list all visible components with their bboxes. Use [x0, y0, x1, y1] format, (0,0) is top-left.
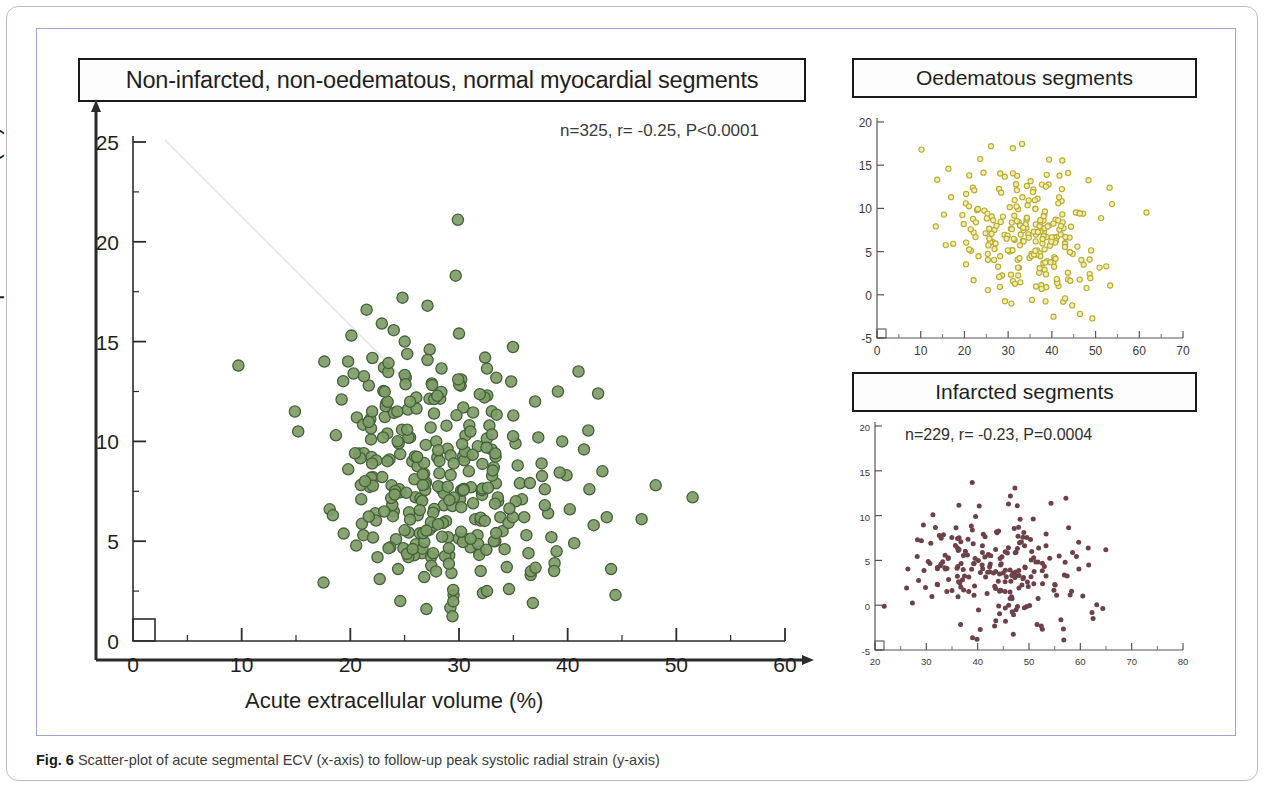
- svg-text:50: 50: [1089, 344, 1103, 358]
- infarcted-chart-stats: n=229, r= -0.23, P=0.0004: [905, 426, 1092, 444]
- svg-text:50: 50: [1024, 656, 1035, 667]
- figure-caption: Fig. 6 Scatter-plot of acute segmental E…: [36, 752, 1246, 768]
- oedematous-chart-panel: Oedematous segments -5051015200102030405…: [845, 58, 1205, 370]
- svg-text:0: 0: [107, 630, 119, 653]
- svg-text:50: 50: [665, 653, 688, 676]
- main-chart-panel: Non-infarcted, non-oedematous, normal my…: [0, 0, 820, 740]
- svg-text:40: 40: [1045, 344, 1059, 358]
- svg-text:10: 10: [230, 653, 253, 676]
- figure-caption-text: Scatter-plot of acute segmental ECV (x-a…: [78, 752, 660, 768]
- figure-root: Non-infarcted, non-oedematous, normal my…: [0, 0, 1265, 787]
- svg-text:10: 10: [96, 430, 119, 453]
- svg-text:0: 0: [865, 289, 872, 303]
- svg-text:0: 0: [127, 653, 139, 676]
- main-x-axis-label: Acute extracellular volume (%): [245, 688, 543, 714]
- svg-text:60: 60: [1133, 344, 1147, 358]
- main-y-axis-label: Follow-up radial strain (%): [0, 127, 5, 383]
- svg-text:70: 70: [1176, 344, 1190, 358]
- svg-text:20: 20: [339, 653, 362, 676]
- svg-text:25: 25: [96, 131, 119, 154]
- svg-text:30: 30: [1001, 344, 1015, 358]
- svg-text:30: 30: [921, 656, 932, 667]
- svg-text:15: 15: [859, 467, 870, 478]
- svg-text:60: 60: [1075, 656, 1086, 667]
- svg-text:5: 5: [107, 530, 119, 553]
- infarcted-chart-panel: Infarcted segments -50510152020304050607…: [845, 372, 1205, 684]
- svg-text:30: 30: [447, 653, 470, 676]
- svg-text:40: 40: [556, 653, 579, 676]
- main-scatter-plot: 05101520250102030405060: [0, 0, 820, 740]
- svg-text:15: 15: [859, 159, 873, 173]
- svg-text:10: 10: [859, 202, 873, 216]
- figure-number: Fig. 6: [36, 752, 74, 768]
- svg-text:60: 60: [773, 653, 796, 676]
- svg-text:80: 80: [1178, 656, 1189, 667]
- svg-text:5: 5: [865, 556, 870, 567]
- svg-text:20: 20: [859, 116, 873, 130]
- svg-text:5: 5: [865, 246, 872, 260]
- svg-text:-5: -5: [861, 332, 872, 346]
- svg-text:15: 15: [96, 331, 119, 354]
- svg-text:20: 20: [870, 656, 881, 667]
- svg-text:40: 40: [972, 656, 983, 667]
- svg-text:70: 70: [1126, 656, 1137, 667]
- svg-text:20: 20: [96, 231, 119, 254]
- infarcted-scatter-plot: -50510152020304050607080: [845, 372, 1205, 684]
- oedematous-scatter-plot: -505101520010203040506070: [845, 58, 1205, 370]
- svg-text:10: 10: [914, 344, 928, 358]
- svg-text:20: 20: [859, 422, 870, 433]
- svg-text:0: 0: [874, 344, 881, 358]
- svg-text:20: 20: [958, 344, 972, 358]
- svg-text:10: 10: [859, 512, 870, 523]
- svg-text:0: 0: [865, 601, 870, 612]
